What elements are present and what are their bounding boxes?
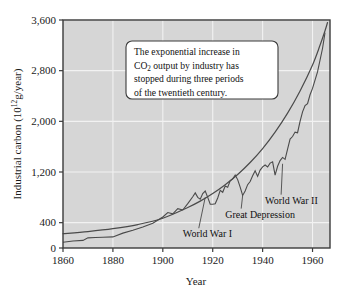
x-tick-label: 1900 [152,254,175,266]
y-axis-title-text: Industrial carbon (1012g/year) [10,68,24,199]
y-axis-title-tail: g/year) [11,68,24,99]
y-tick-label: 2,000 [31,115,56,127]
callout: The exponential increase in CO2 output b… [126,41,278,99]
x-tick-label: 1860 [52,254,75,266]
y-tick-label: 0 [51,242,57,254]
callout-line-4: of the twentieth century. [134,87,227,98]
co2-industrial-carbon-chart: 04001,2002,0002,8003,600 186018801900192… [0,0,346,293]
figure-container: 04001,2002,0002,8003,600 186018801900192… [0,0,346,293]
annotation-label-world-war-one: World War I [183,228,232,239]
y-tick-label: 1,200 [31,166,56,178]
callout-co2-post: output by industry has [151,60,239,71]
y-tick-label: 3,600 [31,14,56,26]
callout-line-3: stopped during three periods [134,73,244,84]
callout-co2-pre: CO [134,60,147,71]
x-tick-label: 1940 [252,254,275,266]
y-axis-title-main: Industrial carbon (10 [11,107,24,200]
x-tick-label: 1880 [102,254,125,266]
x-tick-label: 1920 [202,254,225,266]
y-tick-label: 400 [40,216,57,228]
x-tick-label: 1960 [302,254,325,266]
callout-line-1: The exponential increase in [134,46,240,57]
x-axis-title: Year [186,275,207,287]
annotation-label-great-depression: Great Depression [225,209,295,220]
y-tick-label: 2,800 [31,64,56,76]
annotation-label-world-war-two: World War II [265,195,318,206]
y-axis-title: Industrial carbon (1012g/year) [10,68,24,199]
